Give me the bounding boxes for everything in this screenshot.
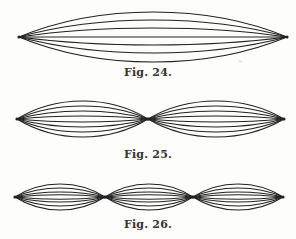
fig26-vibrating-string <box>13 184 284 210</box>
node-point <box>285 35 288 38</box>
node-point <box>191 195 194 198</box>
node-point <box>17 35 20 38</box>
string-curve <box>193 197 283 199</box>
node-point <box>15 117 18 120</box>
string-curve <box>19 37 287 45</box>
faint-mark: ≈ <box>238 58 242 64</box>
string-curve <box>105 197 193 199</box>
fig25-vibrating-string <box>15 101 285 137</box>
string-curve <box>17 119 148 122</box>
fig25-caption: Fig. 25. <box>0 148 296 161</box>
vibrating-string-figures <box>0 0 296 239</box>
node-point <box>281 195 284 198</box>
string-curve <box>105 195 193 197</box>
node-point <box>13 195 16 198</box>
string-curve <box>15 197 105 199</box>
node-point <box>146 117 149 120</box>
string-curve <box>148 116 284 119</box>
fig24-caption: Fig. 24. <box>0 66 296 79</box>
string-curve <box>17 116 148 119</box>
node-point <box>103 195 106 198</box>
string-curve <box>148 119 284 122</box>
string-curve <box>19 37 287 62</box>
string-curve <box>19 12 287 37</box>
node-point <box>282 117 285 120</box>
fig24-vibrating-string <box>17 12 288 62</box>
string-curve <box>15 195 105 197</box>
string-curve <box>19 28 287 37</box>
string-curve <box>193 195 283 197</box>
fig26-caption: Fig. 26. <box>0 218 296 231</box>
